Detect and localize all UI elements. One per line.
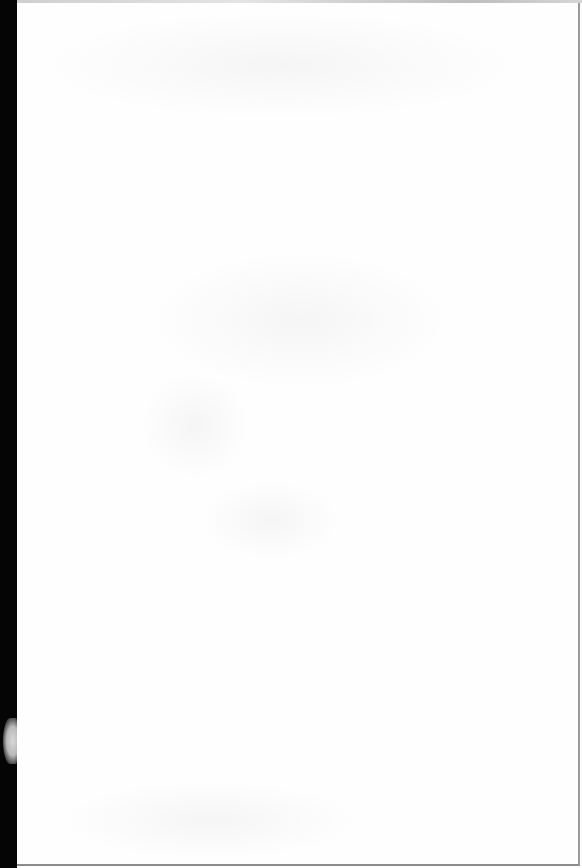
- scanned-page: [0, 0, 582, 868]
- blank-page: [17, 0, 580, 866]
- binding-margin: [0, 0, 17, 868]
- binding-smudge: [3, 718, 17, 764]
- page-top-edge: [17, 0, 582, 3]
